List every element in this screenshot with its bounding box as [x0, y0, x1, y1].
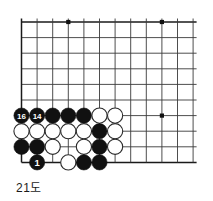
- stone-disc: [29, 124, 44, 139]
- black-stone: [14, 139, 29, 154]
- black-stone: [61, 108, 76, 123]
- white-stone: [108, 124, 123, 139]
- stone-disc: [61, 155, 76, 170]
- white-stone: [61, 155, 76, 170]
- white-stone: [29, 124, 44, 139]
- black-stone: [92, 124, 107, 139]
- stone-disc: [29, 139, 44, 154]
- stone-disc: [92, 139, 107, 154]
- figure-caption: 21도: [16, 178, 42, 195]
- white-stone: [92, 108, 107, 123]
- stone-disc: [61, 124, 76, 139]
- white-stone: [14, 124, 29, 139]
- black-stone: [76, 108, 91, 123]
- stone-disc: [108, 108, 123, 123]
- board-stones: 16141: [14, 108, 123, 170]
- stone-disc: [92, 108, 107, 123]
- stone-disc: [45, 108, 60, 123]
- stone-move-number: 1: [34, 157, 40, 168]
- black-stone: 16: [14, 108, 29, 123]
- stone-disc: [14, 139, 29, 154]
- white-stone: [108, 108, 123, 123]
- white-stone: [76, 124, 91, 139]
- stone-disc: [92, 155, 107, 170]
- stone-disc: [108, 124, 123, 139]
- stone-disc: [14, 124, 29, 139]
- white-stone: [108, 139, 123, 154]
- stone-disc: [76, 139, 91, 154]
- black-stone: 1: [29, 155, 44, 170]
- stone-disc: [76, 155, 91, 170]
- black-stone: [92, 139, 107, 154]
- black-stone: [45, 108, 60, 123]
- stone-move-number: 14: [33, 112, 42, 121]
- black-stone: [92, 155, 107, 170]
- black-stone: [76, 155, 91, 170]
- white-stone: [45, 124, 60, 139]
- go-diagram-figure: 16141 21도: [0, 0, 213, 201]
- stone-disc: [108, 139, 123, 154]
- star-point: [160, 114, 164, 118]
- stone-disc: [92, 124, 107, 139]
- black-stone: 14: [29, 108, 44, 123]
- stone-disc: [76, 108, 91, 123]
- white-stone: [76, 139, 91, 154]
- go-board: 16141: [0, 0, 213, 178]
- star-point: [160, 20, 164, 24]
- stone-disc: [45, 139, 60, 154]
- stone-disc: [61, 108, 76, 123]
- white-stone: [61, 124, 76, 139]
- stone-move-number: 16: [17, 112, 26, 121]
- black-stone: [29, 139, 44, 154]
- white-stone: [45, 139, 60, 154]
- star-point: [66, 20, 70, 24]
- stone-disc: [76, 124, 91, 139]
- go-board-svg: 16141: [0, 0, 213, 178]
- stone-disc: [45, 124, 60, 139]
